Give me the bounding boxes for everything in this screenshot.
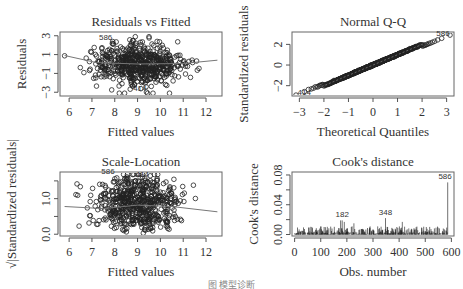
scale-location-svg: Scale-Location67891011120.01.0Fitted val… <box>0 140 232 280</box>
point-annotation: 182 <box>335 210 349 219</box>
x-tick-label: 10 <box>154 245 166 259</box>
x-tick-label: 0 <box>292 245 298 259</box>
x-tick-label: 11 <box>177 245 189 259</box>
y-tick-label: −1 <box>39 67 53 80</box>
x-tick-label: 0 <box>370 105 376 119</box>
plot-frame <box>292 172 454 236</box>
y-axis-label: √|Standardized residuals| <box>4 140 19 269</box>
point-annotation: 414 <box>298 88 312 97</box>
x-tick-label: 400 <box>390 245 408 259</box>
x-tick-label: −3 <box>293 105 306 119</box>
y-axis-label: Cook's distance <box>246 163 261 245</box>
y-tick-label: 0.0 <box>39 227 53 242</box>
x-tick-label: 12 <box>200 105 212 119</box>
y-tick-label: −2 <box>271 79 285 92</box>
x-tick-label: 6 <box>66 245 72 259</box>
y-tick-label: 1 <box>39 52 53 58</box>
x-tick-label: 2 <box>419 105 425 119</box>
residuals-vs-fitted-plot: Residuals vs Fitted6789101112−3−113Fitte… <box>0 0 232 140</box>
point-annotation: 586 <box>99 33 113 42</box>
y-tick-label: 1.0 <box>39 191 53 206</box>
point-annotation: 586 <box>438 172 452 181</box>
x-tick-label: 200 <box>338 245 356 259</box>
x-axis-label: Obs. number <box>339 264 407 279</box>
x-tick-label: 8 <box>112 105 118 119</box>
x-tick-label: 300 <box>364 245 382 259</box>
y-tick-label: 2 <box>271 41 285 47</box>
point-annotation: 348 <box>379 208 393 217</box>
point-annotation: 414 <box>135 170 149 179</box>
x-tick-label: 12 <box>200 245 212 259</box>
data-points <box>74 172 198 235</box>
x-tick-label: 6 <box>66 105 72 119</box>
point-annotation: 586 <box>436 29 450 38</box>
y-axis-label: Standardized residuals <box>236 5 251 122</box>
x-tick-label: 9 <box>135 105 141 119</box>
point-annotation: 414 <box>133 84 147 93</box>
x-tick-label: 7 <box>89 105 95 119</box>
x-tick-label: 500 <box>416 245 434 259</box>
x-tick-label: 9 <box>135 245 141 259</box>
x-tick-label: 600 <box>442 245 460 259</box>
chart-title: Normal Q-Q <box>340 14 407 29</box>
x-axis-label: Theoretical Quantiles <box>317 124 429 139</box>
x-tick-label: 3 <box>444 105 450 119</box>
y-tick-label: 0.00 <box>271 224 285 245</box>
data-points <box>62 34 201 95</box>
cooks-bars <box>295 182 448 234</box>
scale-location-plot: Scale-Location67891011120.01.0Fitted val… <box>0 140 232 280</box>
x-tick-label: 7 <box>89 245 95 259</box>
x-tick-label: −1 <box>342 105 355 119</box>
figure-caption: 图 模型诊断 <box>0 278 463 289</box>
y-tick-label: 0 <box>271 62 285 68</box>
normal-qq-svg: Normal Q-Q−3−2−10123−202Theoretical Quan… <box>232 0 463 140</box>
point-annotation: 586 <box>101 167 115 176</box>
y-axis-label: Residuals <box>14 39 29 90</box>
normal-qq-plot: Normal Q-Q−3−2−10123−202Theoretical Quan… <box>232 0 463 140</box>
residuals-vs-fitted-svg: Residuals vs Fitted6789101112−3−113Fitte… <box>0 0 232 140</box>
y-tick-label: 3 <box>39 33 53 39</box>
data-points <box>292 31 454 99</box>
cooks-distance-svg: Cook's distance01002003004005006000.000.… <box>232 140 463 280</box>
x-axis-label: Fitted values <box>108 264 175 279</box>
x-tick-label: 1 <box>395 105 401 119</box>
x-tick-label: 10 <box>154 105 166 119</box>
chart-title: Cook's distance <box>332 154 414 169</box>
x-tick-label: 11 <box>177 105 189 119</box>
cooks-distance-plot: Cook's distance01002003004005006000.000.… <box>232 140 463 280</box>
x-tick-label: 100 <box>312 245 330 259</box>
x-axis-label: Fitted values <box>108 124 175 139</box>
y-tick-label: 0.04 <box>271 194 285 215</box>
y-tick-label: 0.08 <box>271 164 285 185</box>
y-tick-label: −3 <box>39 86 53 99</box>
chart-title: Residuals vs Fitted <box>92 14 191 29</box>
x-tick-label: 8 <box>112 245 118 259</box>
x-tick-label: −2 <box>318 105 331 119</box>
